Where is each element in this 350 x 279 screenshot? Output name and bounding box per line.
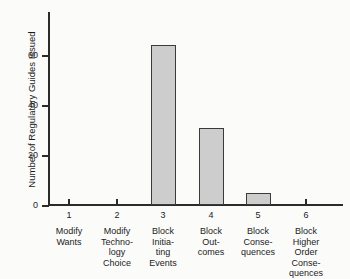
x-axis-line — [48, 204, 343, 206]
plot-area: 0 20 40 60 1 2 3 4 5 6 Modify Wants Modi… — [0, 0, 350, 279]
x-tick-label-4: 4 — [191, 210, 231, 220]
x-tick-2 — [116, 199, 118, 205]
x-tick-1 — [68, 199, 70, 205]
bar-3 — [151, 45, 176, 205]
y-tick-20 — [42, 155, 49, 157]
x-tick-label-6: 6 — [286, 210, 326, 220]
y-tick-40 — [42, 105, 49, 107]
bar-5 — [246, 193, 271, 206]
category-label-6: Block Higher Order Conse- quences — [278, 226, 334, 279]
x-tick-label-1: 1 — [49, 210, 89, 220]
x-tick-label-5: 5 — [238, 210, 278, 220]
x-tick-6 — [305, 199, 307, 205]
x-tick-label-2: 2 — [97, 210, 137, 220]
chart-figure: 0 20 40 60 1 2 3 4 5 6 Modify Wants Modi… — [0, 0, 350, 279]
y-tick-0 — [42, 205, 49, 207]
x-tick-label-3: 3 — [143, 210, 183, 220]
bar-4 — [199, 128, 224, 206]
y-tick-60 — [42, 55, 49, 57]
y-axis-line — [48, 12, 50, 206]
y-axis-title: Number of Regulatory Guides Issued — [26, 10, 37, 210]
